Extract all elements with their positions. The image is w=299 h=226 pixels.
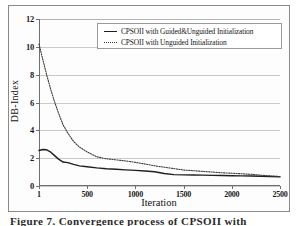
x-tick-label: 1500	[176, 190, 191, 199]
figure-caption: Figure 7. Convergence process of CPSOII …	[10, 215, 290, 226]
y-tick-label: 10	[26, 42, 34, 52]
gridline	[39, 186, 280, 187]
legend-line-dotted-icon	[104, 40, 117, 46]
x-axis-title: Iteration	[141, 197, 177, 208]
x-tick-label: 1	[37, 190, 41, 199]
x-tick-mark	[39, 186, 40, 189]
x-tick-label: 2000	[224, 190, 239, 199]
figure-root: 024681012 15001000150020002500 DB-Index …	[0, 0, 299, 226]
y-tick-label: 0	[30, 181, 34, 191]
legend-label-unguided: CPSOII with Unguided Initialization	[121, 38, 227, 47]
figure-frame: 024681012 15001000150020002500 DB-Index …	[8, 5, 290, 212]
x-tick-mark	[280, 186, 281, 189]
chart-legend: CPSOII with Guided&Unguided Initializati…	[97, 23, 282, 49]
y-tick-label: 2	[30, 153, 34, 163]
x-tick-mark	[135, 186, 136, 189]
x-tick-mark	[232, 186, 233, 189]
y-tick-label: 6	[30, 98, 34, 108]
legend-label-guided-unguided: CPSOII with Guided&Unguided Initializati…	[121, 27, 253, 36]
y-tick-label: 8	[30, 70, 34, 80]
y-tick-label: 4	[30, 125, 34, 135]
legend-item-unguided: CPSOII with Unguided Initialization	[104, 37, 281, 48]
y-axis-title: DB-Index	[9, 80, 20, 122]
x-tick-label: 500	[81, 190, 92, 199]
x-tick-mark	[87, 186, 88, 189]
series-line	[39, 150, 280, 177]
legend-item-guided-unguided: CPSOII with Guided&Unguided Initializati…	[104, 26, 281, 37]
x-tick-mark	[184, 186, 185, 189]
y-tick-label: 12	[26, 14, 34, 24]
legend-line-solid-icon	[104, 29, 117, 35]
x-tick-label: 2500	[272, 190, 287, 199]
series-line	[39, 44, 280, 176]
